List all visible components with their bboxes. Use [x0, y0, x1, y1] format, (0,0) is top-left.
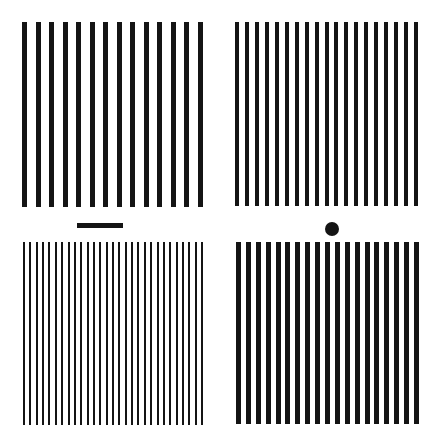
grating-bar — [235, 22, 239, 206]
grating-bar — [137, 242, 139, 425]
grating-bar — [106, 242, 108, 425]
grating-panel-top-left — [22, 22, 203, 207]
grating-bar — [23, 242, 25, 425]
grating-bar — [76, 22, 81, 207]
grating-bar — [344, 22, 348, 206]
grating-bar — [404, 22, 408, 206]
grating-bar — [201, 242, 203, 425]
grating-bar — [266, 242, 271, 424]
grating-bar — [49, 22, 54, 207]
grating-bar — [188, 242, 190, 425]
grating-bar — [295, 22, 299, 206]
grating-bar — [295, 242, 300, 424]
grating-bar — [195, 242, 197, 425]
grating-bar — [315, 22, 319, 206]
grating-bar — [61, 242, 63, 425]
grating-bar — [131, 242, 133, 425]
fixation-dot-icon — [325, 222, 339, 236]
grating-bar — [171, 22, 176, 207]
grating-bar — [305, 242, 310, 424]
grating-bar — [103, 22, 108, 207]
grating-bar — [384, 242, 389, 424]
grating-bar — [285, 22, 289, 206]
grating-bar — [184, 22, 189, 207]
grating-bar — [404, 242, 409, 424]
grating-bar — [29, 242, 31, 425]
grating-bar — [354, 22, 358, 206]
grating-bar — [394, 22, 398, 206]
grating-bar — [144, 22, 149, 207]
grating-bar — [255, 22, 259, 206]
grating-bar — [117, 22, 122, 207]
grating-bar — [157, 22, 162, 207]
grating-bar — [48, 242, 50, 425]
grating-bar — [74, 242, 76, 425]
grating-bar — [414, 22, 418, 206]
grating-bar — [157, 242, 159, 425]
grating-bar — [118, 242, 120, 425]
grating-bar — [245, 22, 249, 206]
grating-bar — [130, 22, 135, 207]
grating-bar — [325, 242, 330, 424]
grating-bar — [364, 22, 368, 206]
grating-bar — [384, 22, 388, 206]
grating-bar — [334, 22, 338, 206]
grating-bar — [414, 242, 419, 424]
grating-bar — [345, 242, 350, 424]
grating-bar — [315, 242, 320, 424]
grating-bar — [256, 242, 261, 424]
grating-bar — [63, 22, 68, 207]
grating-bar — [276, 242, 281, 424]
grating-bar — [99, 242, 101, 425]
grating-bar — [265, 22, 269, 206]
grating-bar — [394, 242, 399, 424]
grating-bar — [355, 242, 360, 424]
grating-panel-bottom-left — [23, 242, 203, 425]
grating-bar — [236, 242, 241, 424]
grating-bar — [36, 22, 41, 207]
grating-bar — [198, 22, 203, 207]
grating-bar — [335, 242, 340, 424]
grating-bar — [125, 242, 127, 425]
grating-bar — [22, 22, 27, 207]
grating-panel-bottom-right — [236, 242, 419, 424]
grating-bar — [150, 242, 152, 425]
grating-bar — [36, 242, 38, 425]
grating-bar — [325, 22, 329, 206]
grating-bar — [285, 242, 290, 424]
grating-bar — [374, 242, 379, 424]
grating-bar — [93, 242, 95, 425]
grating-bar — [365, 242, 370, 424]
grating-bar — [55, 242, 57, 425]
grating-bar — [275, 22, 279, 206]
grating-panel-top-right — [235, 22, 418, 206]
grating-bar — [374, 22, 378, 206]
grating-bar — [80, 242, 82, 425]
grating-bar — [305, 22, 309, 206]
grating-bar — [112, 242, 114, 425]
grating-bar — [90, 22, 95, 207]
grating-bar — [169, 242, 171, 425]
grating-bar — [176, 242, 178, 425]
fixation-dash-icon — [77, 223, 123, 228]
grating-bar — [182, 242, 184, 425]
grating-bar — [68, 242, 70, 425]
grating-bar — [246, 242, 251, 424]
grating-bar — [42, 242, 44, 425]
grating-bar — [87, 242, 89, 425]
grating-bar — [144, 242, 146, 425]
grating-bar — [163, 242, 165, 425]
